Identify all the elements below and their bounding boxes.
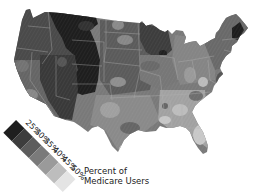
region-louisiana-blob xyxy=(165,134,175,140)
us-choropleth-map xyxy=(0,0,265,194)
legend-swatches xyxy=(3,120,75,192)
region-nm-border-dark xyxy=(94,130,106,140)
